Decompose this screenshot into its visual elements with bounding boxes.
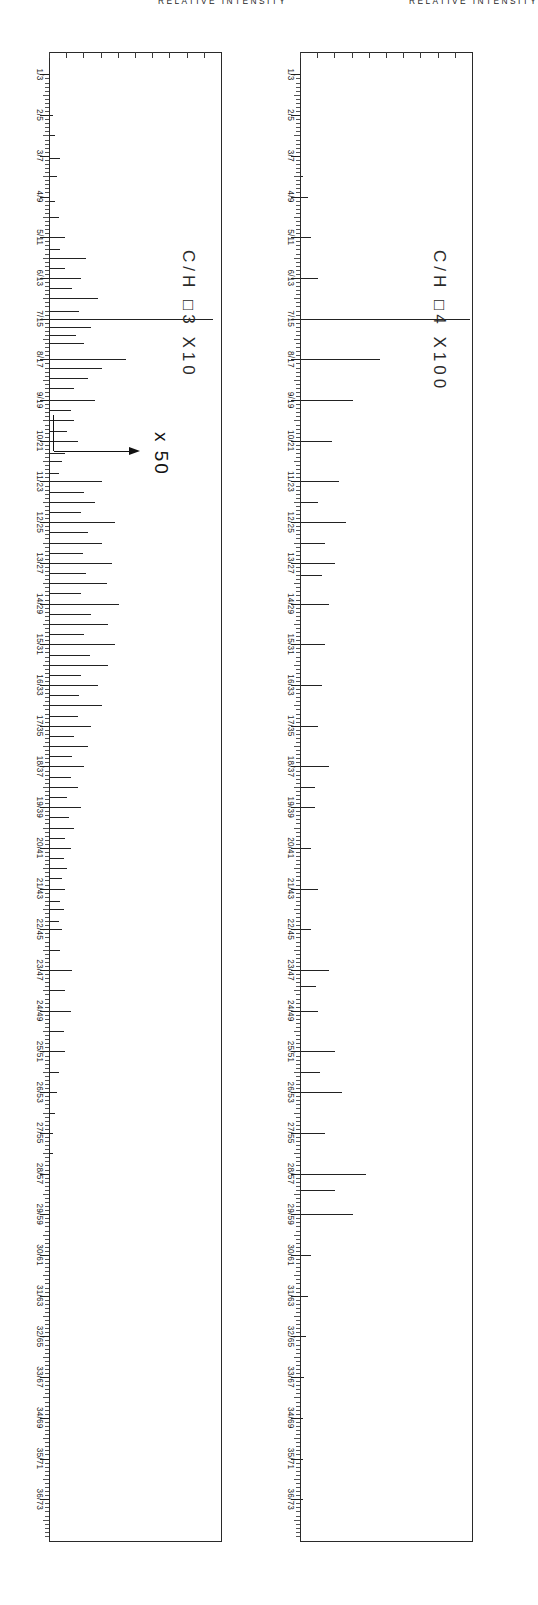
spectrum-peak: [50, 453, 65, 454]
mz-minor-tick: [296, 335, 300, 336]
mz-minor-tick: [45, 1023, 49, 1024]
mz-minor-tick: [45, 1096, 49, 1097]
annotation-label: x 50: [150, 432, 172, 476]
mz-minor-tick: [45, 351, 49, 352]
spectrum-peak: [301, 929, 311, 930]
spectrum-peak: [50, 736, 74, 737]
mz-minor-tick: [45, 689, 49, 690]
spectrum-peak: [50, 1031, 64, 1032]
spectrum-peak: [50, 237, 65, 238]
mz-minor-tick: [296, 302, 300, 303]
mz-minor-tick: [45, 559, 49, 560]
mz-minor-tick: [43, 258, 49, 259]
mz-minor-tick: [296, 1035, 300, 1036]
mz-minor-tick: [296, 131, 300, 132]
mz-axis-label: 2/5: [286, 109, 295, 121]
spectrum-peak: [50, 838, 65, 839]
spectrum-peak: [50, 1133, 53, 1134]
mz-minor-tick: [294, 705, 300, 706]
spectrum-peak: [50, 929, 62, 930]
mz-minor-tick: [45, 636, 49, 637]
mz-minor-tick: [296, 1015, 300, 1016]
mz-minor-tick: [45, 457, 49, 458]
mz-minor-tick: [296, 1251, 300, 1252]
mz-minor-tick: [45, 1015, 49, 1016]
mz-minor-tick: [294, 1275, 300, 1276]
mz-minor-tick: [45, 958, 49, 959]
spectrum-peak: [50, 410, 71, 411]
mz-axis-label: 17/35: [35, 715, 44, 737]
mz-minor-tick: [45, 897, 49, 898]
mz-minor-tick: [296, 213, 300, 214]
mz-minor-tick: [296, 1064, 300, 1065]
mz-minor-tick: [45, 1332, 49, 1333]
mz-minor-tick: [296, 1027, 300, 1028]
mz-axis-label: 10/21: [286, 430, 295, 452]
mz-minor-tick: [45, 1047, 49, 1048]
mz-minor-tick: [45, 1027, 49, 1028]
spectrum-peak: [50, 766, 84, 767]
mz-minor-tick: [296, 168, 300, 169]
mz-minor-tick: [296, 628, 300, 629]
spectrum-peak: [50, 311, 79, 312]
spectrum-peak: [301, 1499, 303, 1500]
mz-minor-tick: [296, 677, 300, 678]
mz-minor-tick: [296, 1239, 300, 1240]
mz-minor-tick: [45, 1410, 49, 1411]
mz-axis-label: 9/19: [35, 392, 44, 409]
mz-minor-tick: [296, 372, 300, 373]
mz-minor-tick: [296, 347, 300, 348]
spectrum-peak: [50, 695, 79, 696]
spectrum-peak: [50, 343, 84, 344]
spectrum-peak: [50, 335, 76, 336]
spectrum-peak: [50, 1072, 59, 1073]
mz-minor-tick: [296, 429, 300, 430]
mz-minor-tick: [43, 1072, 49, 1073]
mz-minor-tick: [296, 815, 300, 816]
mz-axis-label: 31/63: [35, 1285, 44, 1307]
mz-axis-label: 36/73: [35, 1489, 44, 1511]
mz-minor-tick: [45, 91, 49, 92]
mz-minor-tick: [45, 372, 49, 373]
mz-minor-tick: [45, 1393, 49, 1394]
mz-minor-tick: [45, 1304, 49, 1305]
mz-minor-tick: [296, 1507, 300, 1508]
mz-minor-tick: [45, 1239, 49, 1240]
mz-minor-tick: [45, 1125, 49, 1126]
mz-minor-tick: [45, 396, 49, 397]
mz-minor-tick: [45, 840, 49, 841]
mz-minor-tick: [296, 1524, 300, 1525]
mz-minor-tick: [45, 1320, 49, 1321]
mz-minor-tick: [45, 791, 49, 792]
mz-axis-label: 30/61: [35, 1244, 44, 1266]
spectrum-peak: [50, 532, 88, 533]
mz-minor-tick: [45, 815, 49, 816]
mz-minor-tick: [45, 160, 49, 161]
mz-minor-tick: [45, 306, 49, 307]
mz-minor-tick: [45, 388, 49, 389]
mz-minor-tick: [296, 449, 300, 450]
mz-minor-tick: [296, 608, 300, 609]
mz-minor-tick: [45, 490, 49, 491]
mz-minor-tick: [45, 1389, 49, 1390]
mz-minor-tick: [45, 978, 49, 979]
mz-minor-tick: [45, 616, 49, 617]
mz-minor-tick: [45, 518, 49, 519]
mz-minor-tick: [45, 754, 49, 755]
mz-axis-label: 31/63: [286, 1285, 295, 1307]
mz-minor-tick: [45, 1475, 49, 1476]
mz-minor-tick: [296, 612, 300, 613]
mz-axis-label: 2/5: [35, 109, 44, 121]
mz-minor-tick: [45, 1532, 49, 1533]
mz-minor-tick: [45, 844, 49, 845]
mz-minor-tick: [45, 1222, 49, 1223]
spectrum-peak: [50, 614, 91, 615]
mz-minor-tick: [296, 164, 300, 165]
spectrum-peak: [301, 726, 318, 727]
mz-minor-tick: [296, 1267, 300, 1268]
mz-minor-tick: [296, 1373, 300, 1374]
mz-minor-tick: [296, 1353, 300, 1354]
mz-minor-tick: [296, 962, 300, 963]
mz-minor-tick: [296, 1117, 300, 1118]
mz-minor-tick: [296, 1491, 300, 1492]
